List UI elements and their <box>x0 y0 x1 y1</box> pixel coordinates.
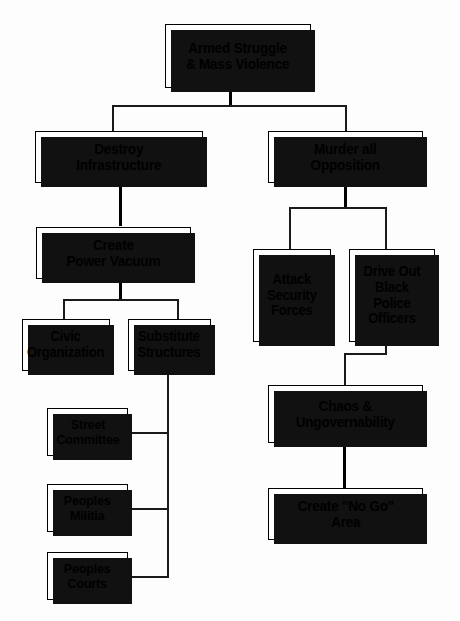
node-create-power-vacuum[interactable]: Create Power Vacuum <box>36 227 191 279</box>
flowchart-diagram: Armed Struggle & Mass Violence Destroy I… <box>0 0 460 621</box>
node-label: Attack Security Forces <box>263 272 320 319</box>
connector-spine-to-street-committee <box>128 432 169 434</box>
node-label: Substitute Structures <box>134 329 205 360</box>
node-murder-opposition[interactable]: Murder all Opposition <box>268 131 423 183</box>
node-label: Murder all Opposition <box>307 141 384 173</box>
node-label: Create "No Go" Area <box>294 498 398 530</box>
node-label: Create Power Vacuum <box>63 237 164 269</box>
node-label: Destroy Infrastructure <box>73 141 166 173</box>
connector-to-attack-security <box>289 207 291 249</box>
connector-murder-bus <box>289 207 387 209</box>
connector-to-drive-out-police <box>385 207 387 249</box>
node-create-no-go-area[interactable]: Create "No Go" Area <box>268 488 423 540</box>
connector-vacuum-bus <box>63 299 179 301</box>
node-destroy-infrastructure[interactable]: Destroy Infrastructure <box>35 131 203 183</box>
connector-to-civic-organization <box>63 299 65 320</box>
node-substitute-structures[interactable]: Substitute Structures <box>128 319 211 371</box>
node-label: Civic Organization <box>24 329 109 360</box>
connector-tier1-bus <box>112 105 347 107</box>
connector-to-murder-opposition <box>345 105 347 132</box>
node-chaos-ungovernability[interactable]: Chaos & Ungovernability <box>268 385 423 443</box>
node-attack-security-forces[interactable]: Attack Security Forces <box>253 249 331 342</box>
connector-destroy-to-vacuum <box>119 183 122 226</box>
node-street-committee[interactable]: Street Committee <box>47 408 128 456</box>
connector-to-destroy-infrastructure <box>112 105 114 132</box>
connector-jog-to-chaos <box>344 353 346 385</box>
node-label: Peoples Militia <box>60 493 114 523</box>
node-peoples-militia[interactable]: Peoples Militia <box>47 484 128 532</box>
node-armed-struggle[interactable]: Armed Struggle & Mass Violence <box>165 24 311 88</box>
connector-substitute-spine <box>167 371 169 577</box>
connector-spine-to-peoples-courts <box>128 576 169 578</box>
connector-chaos-to-nogo <box>343 443 346 488</box>
node-civic-organization[interactable]: Civic Organization <box>22 319 110 371</box>
connector-spine-to-peoples-militia <box>128 508 169 510</box>
node-label: Chaos & Ungovernability <box>292 398 399 430</box>
connector-to-substitute-structures <box>177 299 179 320</box>
node-label: Drive Out Black Police Officers <box>353 264 431 327</box>
node-label: Peoples Courts <box>60 561 114 591</box>
node-label: Armed Struggle & Mass Violence <box>183 40 294 72</box>
node-peoples-courts[interactable]: Peoples Courts <box>47 552 128 600</box>
node-label: Street Committee <box>52 417 123 447</box>
node-drive-out-black-police[interactable]: Drive Out Black Police Officers <box>349 249 435 342</box>
connector-driveout-jog <box>344 353 387 355</box>
